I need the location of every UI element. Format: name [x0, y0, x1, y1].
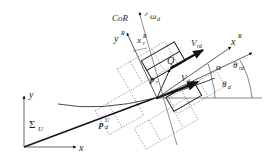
q-label: Q [167, 55, 175, 66]
xr-label: x [136, 35, 141, 45]
y-axis-label: y [28, 89, 34, 100]
xr-sub: r [143, 40, 146, 46]
pd-sup: U [105, 117, 110, 123]
sigma-sub: U [38, 125, 44, 133]
vrd-sub: rd [197, 43, 202, 49]
theta-d-label: θ [222, 79, 227, 89]
sigma-label: Σ [29, 118, 35, 130]
pd-label: p [98, 119, 104, 129]
xr-sup: R [142, 33, 147, 39]
vrd-vector [171, 50, 203, 68]
dotted-robot-ghosts [83, 27, 233, 161]
xR-sup: R [237, 33, 242, 39]
robot-kinematics-diagram: y x Σ U p d U y R CoR ω d x r R p r Q V … [0, 0, 271, 161]
pd-sub: d [105, 124, 109, 130]
robot-origin-point [156, 97, 159, 100]
omega-sub: d [157, 16, 161, 22]
robot-y-axis [127, 33, 157, 98]
xr-dimension-line [133, 48, 147, 51]
omega-label: ω [150, 11, 156, 21]
theta-d-sub: d [228, 84, 231, 90]
pd-vector [24, 98, 155, 147]
xR-label: x [230, 36, 236, 47]
theta-d-arc [212, 80, 215, 98]
diagram-svg: y x Σ U p d U y R CoR ω d x r R p r Q V … [0, 0, 271, 161]
omega-rotation-icon [145, 13, 148, 16]
theta-rd-sub: rd [239, 65, 244, 71]
x-axis-label: x [78, 142, 84, 153]
pr-label: p [149, 74, 155, 84]
yr-label: y [113, 33, 119, 44]
yr-sup: R [120, 30, 125, 36]
cor-point [139, 13, 141, 15]
cor-label: CoR [112, 13, 129, 23]
alpha-label: α [216, 62, 221, 72]
theta-rd-label: θ [233, 60, 238, 70]
